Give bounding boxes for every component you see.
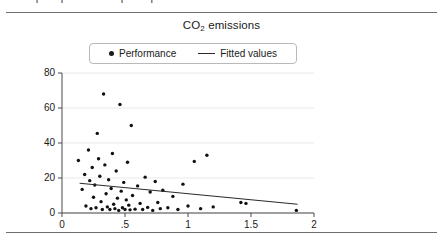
legend-dot-icon (109, 51, 114, 56)
data-point (136, 184, 139, 187)
data-point (166, 206, 169, 209)
data-point (109, 187, 112, 190)
data-point (244, 202, 247, 205)
data-point (106, 205, 109, 208)
data-point (97, 157, 100, 160)
data-point (149, 190, 152, 193)
legend-item-fitted-values: Fitted values (198, 48, 277, 59)
data-point (128, 208, 131, 211)
x-tick-label: .5 (110, 219, 140, 230)
data-point (102, 92, 105, 95)
chart-title-main: CO (183, 19, 200, 31)
clipped-header-text: · ·/ ·|2 · | · 2 · ·2 ·|2 - ·|2 · 2 · 2 … (8, 0, 237, 3)
fitted-line (80, 183, 298, 204)
data-point (125, 198, 128, 201)
y-tick-label: 20 (29, 172, 55, 183)
data-point (181, 182, 184, 185)
x-tick-label: 0 (47, 219, 77, 230)
chart-title: CO2 emissions (0, 19, 443, 31)
data-point (99, 200, 102, 203)
data-point (122, 181, 125, 184)
data-point (156, 201, 159, 204)
legend-label-fitted-values: Fitted values (220, 48, 277, 59)
legend-line-icon (198, 53, 215, 54)
data-point (146, 206, 149, 209)
data-point (104, 192, 107, 195)
chart-legend: Performance Fitted values (89, 43, 297, 64)
y-tick-label: 0 (29, 207, 55, 218)
data-point (159, 207, 162, 210)
data-point (131, 194, 134, 197)
data-point (108, 208, 111, 211)
data-point (114, 169, 117, 172)
clipped-header-strip: · ·/ ·|2 · | · 2 · ·2 ·|2 - ·|2 · 2 · 2 … (0, 0, 443, 11)
chart-title-tail: emissions (205, 19, 260, 31)
data-point (118, 103, 121, 106)
data-point (120, 189, 123, 192)
data-point (295, 209, 298, 212)
chart-figure: CO2 emissions Performance Fitted values … (0, 13, 443, 231)
data-point (141, 208, 144, 211)
data-point (154, 180, 157, 183)
data-point (176, 208, 179, 211)
data-point (89, 207, 92, 210)
data-point (112, 203, 115, 206)
data-point (143, 175, 146, 178)
x-tick-label: 1.5 (236, 219, 266, 230)
data-point (193, 160, 196, 163)
data-point (212, 205, 215, 208)
data-point (111, 152, 114, 155)
fitted-values-line (80, 183, 298, 204)
legend-item-performance: Performance (109, 48, 176, 59)
y-tick-label: 60 (29, 102, 55, 113)
x-tick-label: 2 (299, 219, 329, 230)
bottom-horizontal-rule (6, 232, 437, 233)
data-point (94, 206, 97, 209)
data-point (87, 148, 90, 151)
plot-svg (62, 73, 314, 213)
data-point (83, 173, 86, 176)
data-point (77, 159, 80, 162)
data-point (91, 166, 94, 169)
data-point (126, 161, 129, 164)
data-point (103, 163, 106, 166)
data-point (117, 209, 120, 212)
x-tick-label: 1 (173, 219, 203, 230)
data-point (133, 207, 136, 210)
data-point (116, 196, 119, 199)
data-point (199, 207, 202, 210)
data-point (171, 195, 174, 198)
chart-title-subscript: 2 (200, 24, 205, 33)
data-point (113, 207, 116, 210)
data-point (205, 154, 208, 157)
data-point (239, 201, 242, 204)
data-point (186, 204, 189, 207)
data-point (107, 178, 110, 181)
data-point (98, 175, 101, 178)
y-tick-label: 40 (29, 137, 55, 148)
data-point (101, 208, 104, 211)
plot-area: 020406080 0.511.52 (62, 73, 314, 213)
data-point (92, 196, 95, 199)
data-point (151, 209, 154, 212)
tick-marks (58, 73, 314, 217)
data-point (96, 132, 99, 135)
data-point (130, 124, 133, 127)
data-point (123, 208, 126, 211)
legend-label-performance: Performance (119, 48, 176, 59)
data-point (80, 188, 83, 191)
data-point (127, 203, 130, 206)
data-point (138, 202, 141, 205)
data-point (88, 179, 91, 182)
data-point (84, 204, 87, 207)
y-tick-label: 80 (29, 67, 55, 78)
gridlines (62, 73, 314, 213)
